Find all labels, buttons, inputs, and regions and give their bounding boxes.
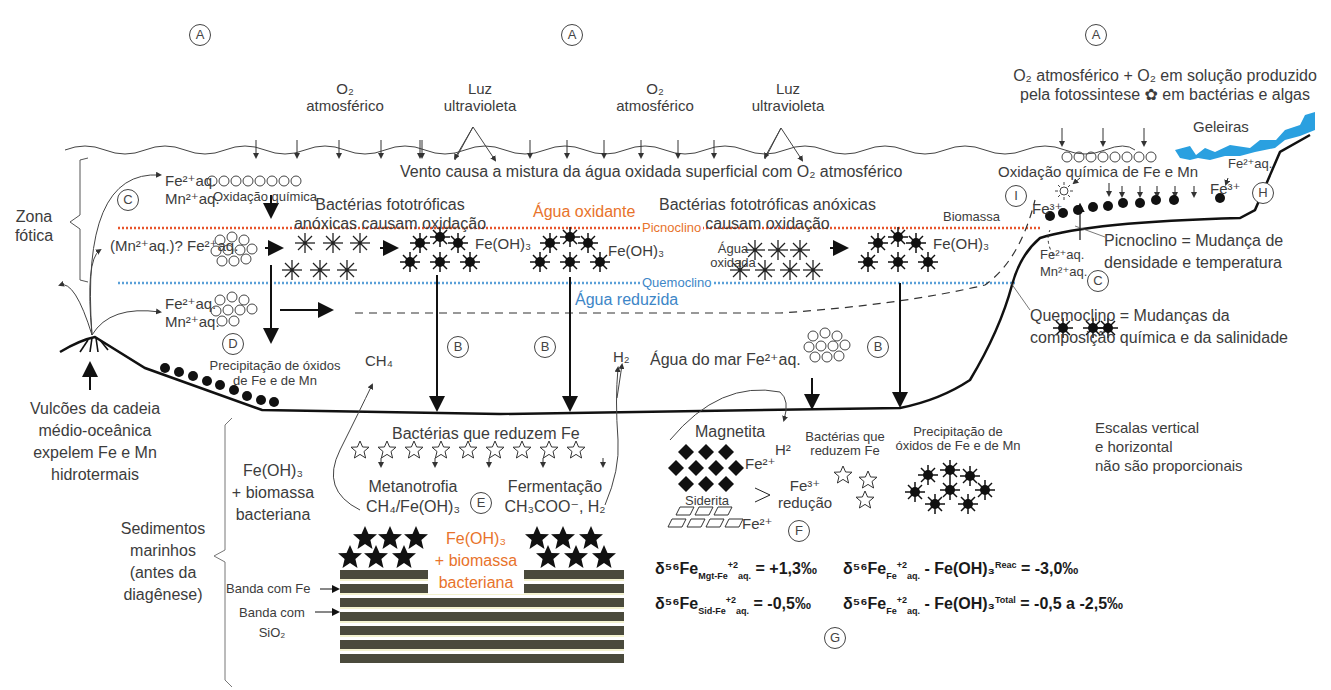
- eq2-mid: - Fe(OH)₃: [920, 560, 995, 577]
- scale-note: Escalas vertical e horizontal não são pr…: [1095, 418, 1243, 475]
- eq3-value: = -0,5‰: [754, 595, 811, 612]
- fe-aq-right: Fe²⁺aq.: [1040, 248, 1084, 262]
- o2-atmosferico-1: O₂ atmosférico: [290, 80, 400, 114]
- eq4-sub: Fe: [886, 606, 897, 616]
- geleiras-label: Geleiras: [1193, 118, 1249, 135]
- luz-line2: ultravioleta: [733, 97, 843, 114]
- banda-fe-label: Banda com Fe: [226, 582, 311, 596]
- luz-line2: ultravioleta: [425, 97, 535, 114]
- fe-oh3-2: Fe(OH)₃: [608, 242, 664, 259]
- sed-line3: (antes da: [108, 562, 218, 584]
- bacteria-left-label: Bactérias fototróficas anóxicas causam o…: [285, 195, 495, 233]
- fe-oh3-line: Fe(OH)₃: [228, 460, 318, 482]
- eq2-sub2: aq.: [907, 571, 920, 581]
- metanotrofia-label: Metanotrofia CH₄/Fe(OH)₃: [358, 477, 468, 517]
- fe-aq-top: Fe²⁺aq.: [165, 172, 216, 189]
- fe-aq-lower: Fe²⁺aq.: [165, 295, 216, 312]
- fe-oh3-biomass-left: Fe(OH)₃ + biomassa bacteriana: [228, 460, 318, 526]
- bacteriana-line: bacteriana: [228, 504, 318, 526]
- marker-e: E: [470, 492, 492, 514]
- marker-h: H: [1252, 182, 1274, 204]
- small-line1: Bactérias que: [800, 430, 890, 444]
- precip-right-line2: óxidos de Fe e de Mn: [893, 439, 1023, 453]
- fe-oh3-3: Fe(OH)₃: [933, 235, 989, 252]
- banda-sio2-line2: SiO₂: [232, 623, 312, 643]
- small-line2: reduzem Fe: [800, 444, 890, 458]
- luz-uv-2: Luz ultravioleta: [733, 80, 843, 114]
- eq2-sub: Fe: [886, 571, 897, 581]
- isotope-eq-2: δ⁵⁶FeFe+2aq. - Fe(OH)₃Reac = -3,0‰: [843, 560, 1078, 581]
- mn-aq-lower: Mn²⁺aq.: [165, 313, 220, 330]
- eq3-sub2: aq.: [736, 606, 749, 616]
- fe3-label-2: Fe³⁺: [1032, 200, 1062, 217]
- metanotrofia-line2: CH₄/Fe(OH)₃: [358, 497, 468, 517]
- volcano-line2: médio-oceânica: [10, 420, 180, 442]
- isotope-eq-4: δ⁵⁶FeFe+2aq. - Fe(OH)₃Total = -0,5 a -2,…: [843, 595, 1123, 616]
- fe2-label-a: Fe²⁺: [745, 455, 775, 472]
- wind-mixing-label: Vento causa a mistura da água oxidada su…: [400, 162, 902, 181]
- eq2-value: = -3,0‰: [1021, 560, 1078, 577]
- volcano-line3: expelem Fe e Mn: [10, 442, 180, 464]
- marker-b-2: B: [534, 336, 556, 358]
- sed-line4: diagênese): [108, 584, 218, 606]
- quemoclino-label: Quemoclino: [640, 276, 713, 290]
- mn-aq-right: Mn²⁺aq.: [1040, 265, 1087, 279]
- isotope-eq-3: δ⁵⁶FeSid-Fe+2aq. = -0,5‰: [655, 595, 811, 616]
- eq1-sup: +2: [728, 560, 738, 570]
- h2-label: H₂: [613, 348, 630, 365]
- precip-line1: Precipitação de óxidos: [195, 358, 355, 373]
- zona-line2: fótica: [4, 226, 64, 245]
- fermentacao-line1: Fermentação: [500, 477, 610, 497]
- zona-line1: Zona: [4, 207, 64, 226]
- bacteria-left-line1: Bactérias fototróficas: [285, 195, 495, 214]
- luz-line1: Luz: [733, 80, 843, 97]
- eq3-sup: +2: [726, 595, 736, 605]
- eq4-sup: +2: [897, 595, 907, 605]
- picnoclino-def-line2: densidade e temperatura: [1104, 252, 1283, 274]
- fe3-line: Fe³⁺: [770, 477, 840, 494]
- quemoclino-def-line1: Quemoclino = Mudanças da: [1030, 305, 1288, 327]
- reducao-line: redução: [770, 494, 840, 511]
- bacteria-right-line1: Bactérias fototróficas anóxicas: [645, 195, 890, 214]
- marker-g: G: [824, 627, 846, 649]
- sedimentos-label: Sedimentos marinhos (antes da diagênese): [108, 518, 218, 606]
- marker-b-1: B: [447, 336, 469, 358]
- precip-right-line1: Precipitação de: [893, 425, 1023, 439]
- mn-aq-top: Mn²⁺aq.: [165, 190, 220, 207]
- banda-sio2-label: Banda com SiO₂: [232, 603, 312, 643]
- precip-oxides-right: Precipitação de óxidos de Fe e de Mn: [893, 425, 1023, 453]
- precip-line2: de Fe e de Mn: [195, 373, 355, 388]
- bacteria-cluster-1: [282, 233, 370, 280]
- eq3-prefix: δ⁵⁶Fe: [655, 595, 698, 612]
- picnoclino-def-line1: Picnoclino = Mudança de: [1104, 230, 1283, 252]
- o2-photo-line2: pela fotossintese ✿ em bactérias e algas: [1000, 85, 1330, 104]
- eq4-sub2: aq.: [907, 606, 920, 616]
- quemoclino-def-line2: composição química e da salinidade: [1030, 327, 1288, 349]
- marker-f: F: [788, 520, 810, 542]
- fe-aq-h: Fe²⁺aq.: [1228, 157, 1272, 171]
- eq1-sub: Mgt-Fe: [698, 571, 728, 581]
- agua-oxidada-line2: oxidada: [708, 256, 758, 270]
- marker-i: I: [1005, 185, 1027, 207]
- eq4-value: = -0,5 a -2,5‰: [1020, 595, 1123, 612]
- eq4-mid: - Fe(OH)₃: [920, 595, 995, 612]
- eq1-prefix: δ⁵⁶Fe: [655, 560, 698, 577]
- eq1-value: = +1,3‰: [756, 560, 817, 577]
- o2-photo-line1: O₂ atmosférico + O₂ em solução produzido: [1000, 66, 1330, 85]
- fermentacao-line2: CH₃COO⁻, H₂: [500, 497, 610, 517]
- agua-reduzida-label: Água reduzida: [575, 290, 678, 309]
- zona-fotica-label: Zona fótica: [4, 207, 64, 245]
- o2-symbol: O₂: [290, 80, 400, 97]
- center-line3: bacteriana: [428, 572, 524, 594]
- picnoclino-label: Picnoclino: [640, 221, 703, 235]
- siderita-label: Siderita: [685, 492, 729, 509]
- scale-line1: Escalas vertical: [1095, 418, 1243, 437]
- marker-c-1: C: [117, 189, 139, 211]
- agua-oxidada-line1: Água: [708, 242, 758, 256]
- fe2-label-b: Fe²⁺: [742, 515, 772, 532]
- agua-oxidante-label: Água oxidante: [533, 202, 635, 221]
- banda-sio2-line1: Banda com: [232, 603, 312, 623]
- volcano-line1: Vulcões da cadeia: [10, 398, 180, 420]
- luz-uv-1: Luz ultravioleta: [425, 80, 535, 114]
- biomassa-label: Biomassa: [943, 210, 1000, 224]
